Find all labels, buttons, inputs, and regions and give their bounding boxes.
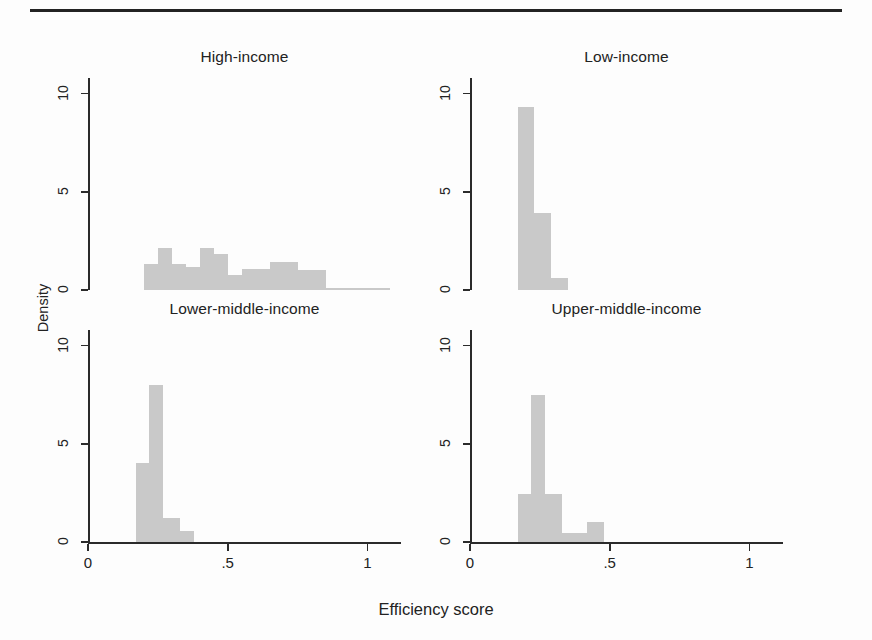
figure-canvas: Density Efficiency score High-income0510… bbox=[0, 0, 872, 640]
x-tick-label: 1 bbox=[729, 554, 769, 571]
y-tick-mark bbox=[463, 345, 470, 347]
y-tick-label: 5 bbox=[437, 430, 453, 456]
x-tick-mark bbox=[749, 544, 751, 551]
y-tick-label: 10 bbox=[437, 332, 453, 358]
y-axis-line-upper-middle-income bbox=[470, 330, 472, 542]
histogram-bar bbox=[545, 494, 562, 542]
histogram-bar bbox=[562, 533, 587, 542]
y-tick-mark bbox=[463, 541, 470, 543]
x-tick-label: 0 bbox=[450, 554, 490, 571]
x-tick-mark bbox=[609, 544, 611, 551]
y-tick-label: 0 bbox=[437, 528, 453, 554]
y-tick-mark bbox=[463, 443, 470, 445]
histogram-bar bbox=[518, 494, 532, 542]
panel-upper-middle-income: 05100.51 bbox=[0, 0, 872, 640]
histogram-bar bbox=[587, 522, 604, 542]
plot-area-upper-middle-income bbox=[470, 330, 783, 542]
x-tick-label: .5 bbox=[590, 554, 630, 571]
x-tick-mark bbox=[469, 544, 471, 551]
x-axis-line-upper-middle-income bbox=[470, 542, 783, 544]
histogram-bar bbox=[531, 395, 545, 542]
